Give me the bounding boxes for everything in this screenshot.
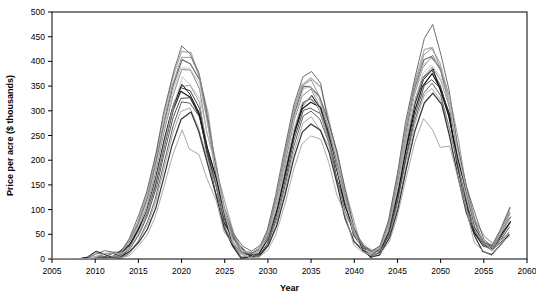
y-axis-tick-label: 100 (31, 205, 45, 215)
x-axis-tick-label: 2010 (86, 266, 105, 276)
y-axis-tick-label: 50 (36, 229, 46, 239)
y-axis-tick-label: 250 (31, 131, 45, 141)
x-axis-tick-label: 2030 (258, 266, 277, 276)
x-axis-tick-label: 2005 (43, 266, 62, 276)
x-axis-tick-label: 2035 (302, 266, 321, 276)
x-axis-title: Year (280, 283, 300, 293)
y-axis-tick-label: 300 (31, 106, 45, 116)
y-axis-tick-label: 200 (31, 155, 45, 165)
price-per-acre-line-chart: 0501001502002503003504004505002005201020… (0, 0, 536, 297)
y-axis-tick-label: 400 (31, 56, 45, 66)
chart-container: 0501001502002503003504004505002005201020… (0, 0, 536, 297)
y-axis-tick-label: 500 (31, 7, 45, 17)
y-axis-title: Price per acre ($ thousands) (5, 75, 15, 196)
x-axis-tick-label: 2050 (431, 266, 450, 276)
y-axis-tick-label: 450 (31, 32, 45, 42)
x-axis-tick-label: 2040 (345, 266, 364, 276)
x-axis-tick-label: 2055 (474, 266, 493, 276)
y-axis-tick-label: 350 (31, 81, 45, 91)
x-axis-tick-label: 2045 (388, 266, 407, 276)
y-axis-tick-label: 0 (40, 254, 45, 264)
x-axis-tick-label: 2060 (518, 266, 536, 276)
x-axis-tick-label: 2020 (172, 266, 191, 276)
x-axis-tick-label: 2015 (129, 266, 148, 276)
y-axis-tick-label: 150 (31, 180, 45, 190)
x-axis-tick-label: 2025 (215, 266, 234, 276)
